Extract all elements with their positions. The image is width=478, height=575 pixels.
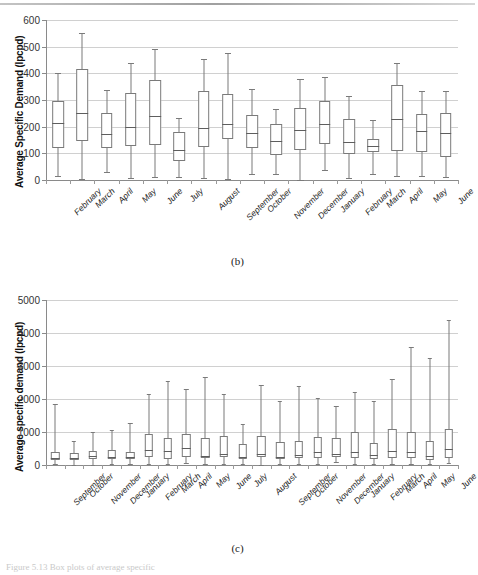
whisker-cap-upper bbox=[372, 401, 376, 402]
whisker-upper bbox=[223, 394, 224, 436]
whisker-upper bbox=[276, 109, 277, 124]
median-line bbox=[126, 457, 134, 458]
box-iqr bbox=[173, 132, 185, 161]
median-line bbox=[182, 448, 190, 449]
whisker-cap-lower bbox=[334, 462, 338, 463]
whisker-upper bbox=[397, 63, 398, 85]
box-plot-item bbox=[65, 300, 84, 465]
x-tick-label: August bbox=[273, 471, 299, 497]
whisker-upper bbox=[111, 430, 112, 450]
x-tick-label: May bbox=[439, 471, 457, 489]
x-tick-mark bbox=[364, 465, 365, 469]
y-tick-label: 100 bbox=[23, 148, 40, 159]
x-tick-mark bbox=[240, 180, 241, 184]
median-line bbox=[77, 113, 89, 114]
box-plot-item bbox=[252, 300, 271, 465]
whisker-cap-upper bbox=[297, 79, 303, 80]
whisker-upper bbox=[179, 118, 180, 132]
box-iqr bbox=[222, 94, 234, 139]
box-plot-item bbox=[121, 300, 140, 465]
figure-panel-b: Average Specific Demand (lpcpd) 01002003… bbox=[0, 12, 475, 277]
median-line bbox=[388, 451, 396, 452]
whisker-upper bbox=[130, 423, 131, 452]
x-tick-mark bbox=[119, 180, 120, 184]
box-iqr bbox=[164, 438, 172, 458]
whisker-cap-lower bbox=[203, 464, 207, 465]
box-plot-item bbox=[421, 300, 440, 465]
median-line bbox=[407, 452, 415, 453]
whisker-cap-lower bbox=[240, 464, 244, 465]
whisker-cap-upper bbox=[203, 377, 207, 378]
whisker-upper bbox=[421, 91, 422, 114]
box-plot-item bbox=[288, 20, 312, 180]
whisker-lower bbox=[155, 145, 156, 176]
whisker-upper bbox=[392, 379, 393, 429]
whisker-cap-upper bbox=[394, 63, 400, 64]
box-plot-item bbox=[439, 300, 458, 465]
x-tick-mark bbox=[361, 180, 362, 184]
page-top-rule bbox=[0, 3, 475, 5]
whisker-cap-upper bbox=[419, 91, 425, 92]
whisker-lower bbox=[58, 148, 59, 176]
whisker-cap-lower bbox=[322, 170, 328, 171]
whisker-upper bbox=[445, 91, 446, 113]
whisker-upper bbox=[55, 404, 56, 452]
median-line bbox=[164, 451, 172, 452]
x-tick-mark bbox=[177, 465, 178, 469]
median-line bbox=[416, 131, 428, 132]
whisker-cap-lower bbox=[297, 180, 303, 181]
box-plot-item bbox=[70, 20, 94, 180]
median-line bbox=[198, 128, 210, 129]
whisker-cap-lower bbox=[72, 465, 76, 466]
box-iqr bbox=[149, 80, 161, 145]
box-iqr bbox=[416, 114, 428, 151]
median-line bbox=[351, 452, 359, 453]
median-line bbox=[125, 127, 137, 128]
whisker-cap-lower bbox=[55, 176, 61, 177]
whisker-cap-upper bbox=[176, 118, 182, 119]
box-iqr bbox=[295, 108, 307, 150]
whisker-cap-lower bbox=[428, 464, 432, 465]
whisker-cap-lower bbox=[390, 464, 394, 465]
whisker-cap-lower bbox=[419, 176, 425, 177]
x-tick-mark bbox=[83, 465, 84, 469]
whisker-cap-lower bbox=[446, 463, 450, 464]
box-plot-item bbox=[364, 300, 383, 465]
whisker-lower bbox=[421, 152, 422, 177]
x-tick-mark bbox=[102, 465, 103, 469]
y-tick-label: 3000 bbox=[18, 361, 40, 372]
whisker-upper bbox=[336, 406, 337, 439]
whisker-lower bbox=[348, 154, 349, 177]
whisker-cap-upper bbox=[443, 91, 449, 92]
box-plot-item bbox=[383, 300, 402, 465]
x-tick-label: May bbox=[214, 471, 232, 489]
whisker-cap-upper bbox=[322, 77, 328, 78]
box-iqr bbox=[319, 101, 331, 144]
box-plot-item bbox=[215, 300, 234, 465]
whisker-upper bbox=[74, 441, 75, 454]
box-plot-item bbox=[143, 20, 167, 180]
median-line bbox=[70, 458, 78, 459]
whisker-cap-upper bbox=[222, 394, 226, 395]
whisker-upper bbox=[92, 432, 93, 450]
box-plot-item bbox=[158, 300, 177, 465]
x-tick-mark bbox=[458, 180, 459, 184]
panel-c-canvas bbox=[46, 300, 458, 465]
box-plot-item bbox=[434, 20, 458, 180]
median-line bbox=[222, 124, 234, 125]
whisker-cap-lower bbox=[259, 465, 263, 466]
box-iqr bbox=[392, 85, 404, 151]
whisker-cap-upper bbox=[273, 109, 279, 110]
y-tick-label: 200 bbox=[23, 121, 40, 132]
whisker-cap-lower bbox=[372, 464, 376, 465]
x-tick-label: June bbox=[164, 186, 184, 206]
x-tick-mark bbox=[143, 180, 144, 184]
whisker-cap-upper bbox=[334, 406, 338, 407]
box-plot-item bbox=[94, 20, 118, 180]
box-plot-item bbox=[46, 20, 70, 180]
box-iqr bbox=[246, 115, 258, 148]
median-line bbox=[173, 150, 185, 151]
box-plot-item bbox=[402, 300, 421, 465]
whisker-cap-upper bbox=[370, 120, 376, 121]
whisker-cap-upper bbox=[315, 398, 319, 399]
